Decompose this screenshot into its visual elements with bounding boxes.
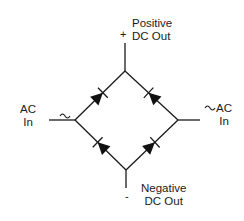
ac-in-right-label: AC In bbox=[214, 102, 234, 128]
ac-left-tilde-icon bbox=[60, 114, 70, 118]
positive-polarity: + bbox=[120, 29, 126, 40]
negative-polarity: - bbox=[125, 191, 129, 202]
ac-in-left-label: AC In bbox=[18, 103, 38, 129]
negative-dc-out-label: Negative DC Out bbox=[141, 182, 186, 208]
positive-dc-out-label: Positive DC Out bbox=[132, 17, 172, 43]
